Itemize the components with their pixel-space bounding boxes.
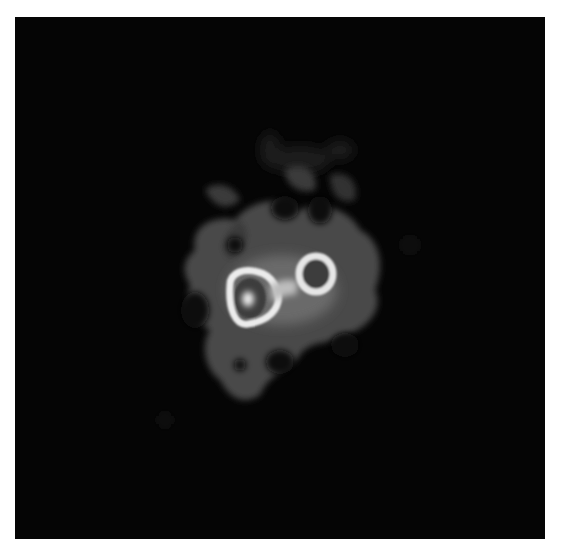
right-ring-source	[299, 256, 333, 292]
left-core	[241, 290, 255, 308]
nebula-image	[15, 17, 545, 539]
image-frame	[15, 17, 545, 539]
